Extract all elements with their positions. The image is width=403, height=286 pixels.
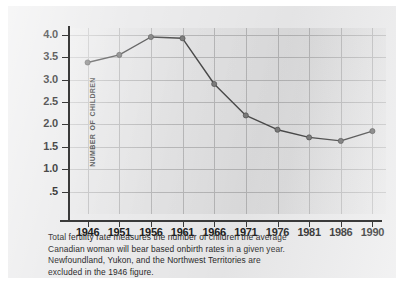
y-axis-tick-label: 4.0 bbox=[24, 28, 58, 40]
x-axis-tick bbox=[214, 221, 215, 227]
x-axis-line bbox=[60, 220, 382, 222]
series-polyline bbox=[88, 37, 373, 141]
data-point-marker bbox=[338, 138, 343, 143]
y-axis-tick-label: 3.5 bbox=[24, 50, 58, 62]
y-axis-tick bbox=[62, 192, 69, 193]
data-point-marker bbox=[370, 129, 375, 134]
caption-line-3: Newfoundland, Yukon, and the Northwest T… bbox=[48, 255, 378, 267]
data-point-marker bbox=[212, 81, 217, 86]
x-axis-tick bbox=[246, 221, 247, 227]
data-point-marker bbox=[180, 36, 185, 41]
figure-caption: Total fertility rate measures the number… bbox=[48, 232, 378, 278]
y-axis-tick bbox=[62, 169, 69, 170]
figure-page: NUMBER OF CHILDREN 4.03.53.02.52.01.51.0… bbox=[0, 0, 403, 286]
data-point-marker bbox=[307, 135, 312, 140]
y-axis-tick bbox=[62, 57, 69, 58]
data-series-line bbox=[68, 28, 386, 214]
data-point-marker bbox=[117, 52, 122, 57]
y-axis-tick-label: .5 bbox=[24, 185, 58, 197]
y-axis-tick-label: 3.0 bbox=[24, 73, 58, 85]
data-point-marker bbox=[85, 60, 90, 65]
data-point-marker bbox=[148, 34, 153, 39]
y-axis-tick bbox=[62, 80, 69, 81]
fertility-rate-line-chart: NUMBER OF CHILDREN 4.03.53.02.52.01.51.0… bbox=[60, 20, 386, 216]
y-axis-tick-label: 2.0 bbox=[24, 117, 58, 129]
x-axis-tick bbox=[278, 221, 279, 227]
caption-line-4: excluded in the 1946 figure. bbox=[48, 267, 378, 278]
x-axis-tick bbox=[309, 221, 310, 227]
y-axis-tick bbox=[62, 102, 69, 103]
x-axis-tick bbox=[151, 221, 152, 227]
caption-line-2: Canadian woman will bear based onbirth r… bbox=[48, 244, 378, 256]
caption-line-1: Total fertility rate measures the number… bbox=[48, 232, 378, 244]
y-axis-tick-label: 2.5 bbox=[24, 95, 58, 107]
x-axis-tick bbox=[119, 221, 120, 227]
y-axis-tick bbox=[62, 35, 69, 36]
y-axis-tick bbox=[62, 147, 69, 148]
data-point-marker bbox=[275, 127, 280, 132]
y-axis-tick-label: 1.0 bbox=[24, 162, 58, 174]
data-point-marker bbox=[243, 113, 248, 118]
x-axis-tick bbox=[341, 221, 342, 227]
x-axis-tick bbox=[372, 221, 373, 227]
figure-card: NUMBER OF CHILDREN 4.03.53.02.52.01.51.0… bbox=[8, 6, 396, 278]
x-axis-tick bbox=[183, 221, 184, 227]
y-axis-tick-label: 1.5 bbox=[24, 140, 58, 152]
x-axis-tick bbox=[88, 221, 89, 227]
y-axis-tick bbox=[62, 124, 69, 125]
